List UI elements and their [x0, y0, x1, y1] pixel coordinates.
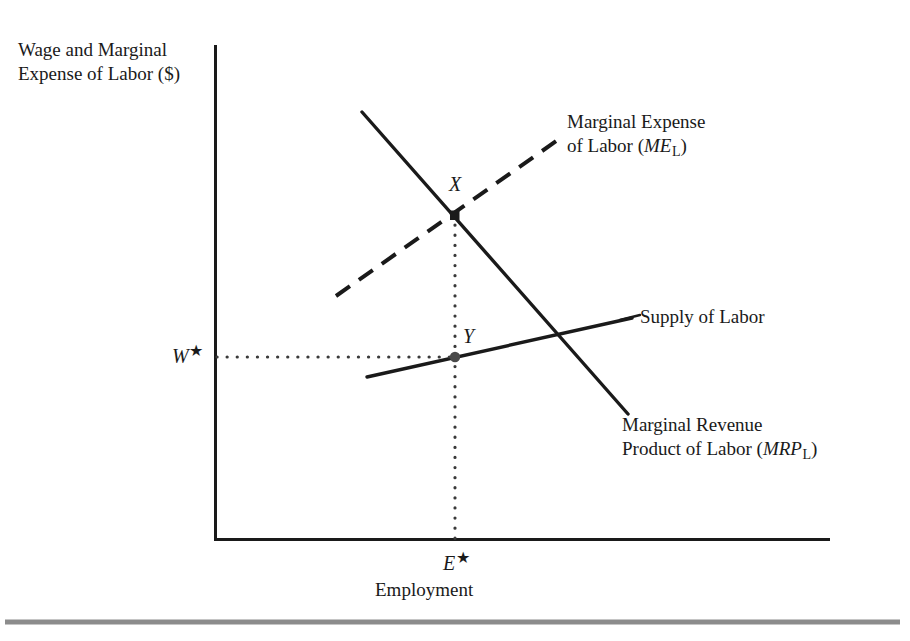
marginal-revenue-product-of-labor-label: Marginal Revenue Product of Labor (MRPL): [622, 413, 817, 463]
employment-symbol: E: [443, 552, 455, 574]
point-y-label: Y: [463, 324, 474, 350]
marginal-expense-of-labor-label: Marginal Expense of Labor (MEL): [567, 110, 705, 160]
me-label-line-2: of Labor (MEL): [567, 135, 687, 156]
point-y-marker: [450, 352, 460, 362]
y-axis-title-line-2: Expense of Labor ($): [18, 63, 180, 84]
point-x-marker: [450, 211, 460, 221]
me-label-prefix: of Labor (: [567, 135, 644, 156]
monopsony-labor-market-diagram: [0, 0, 910, 641]
employment-star: ★: [455, 549, 470, 566]
mrp-label-prefix: Product of Labor (: [622, 438, 763, 459]
me-label-line-1: Marginal Expense: [567, 111, 705, 132]
x-axis-title: Employment: [375, 578, 473, 602]
wage-star: ★: [189, 342, 204, 359]
mrp-subscript: L: [802, 446, 811, 462]
me-subscript: L: [671, 143, 680, 159]
employment-tick-label: E★: [443, 548, 470, 576]
mrp-label-line-1: Marginal Revenue: [622, 414, 763, 435]
y-axis-title-line-1: Wage and Marginal: [18, 39, 167, 60]
mrp-label-line-2: Product of Labor (MRPL): [622, 438, 817, 459]
figure-background: [0, 0, 910, 641]
y-axis-title: Wage and Marginal Expense of Labor ($): [18, 38, 180, 87]
mrp-symbol: MRP: [763, 438, 802, 459]
supply-of-labor-label: Supply of Labor: [640, 305, 765, 329]
me-symbol: ME: [644, 135, 671, 156]
wage-tick-label: W★: [172, 341, 203, 369]
mrp-label-suffix: ): [811, 438, 817, 459]
wage-symbol: W: [172, 345, 189, 367]
point-x-label: X: [449, 172, 461, 198]
me-label-suffix: ): [681, 135, 687, 156]
